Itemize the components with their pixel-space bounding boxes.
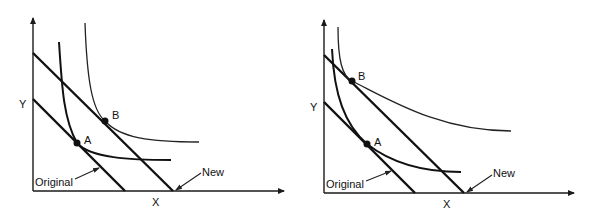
x-axis-label: X [152,196,160,208]
point-b [102,118,109,125]
point-a [74,140,81,147]
diagram-canvas: Y X A B Original New Y X A B [0,0,594,222]
point-a-label: A [84,134,92,146]
indifference-curve-new [85,23,199,142]
right-diagram: Y X A B Original New [310,20,574,210]
original-label: Original [35,176,73,188]
new-label: New [493,167,515,179]
point-b-label: B [358,70,365,82]
new-pointer-arrow [467,175,492,192]
original-pointer-arrow [366,171,391,181]
left-diagram: Y X A B Original New [19,18,284,208]
point-b [349,78,356,85]
original-pointer-arrow [75,168,99,179]
point-a-label: A [374,136,382,148]
new-label: New [202,166,224,178]
y-axis-label: Y [19,98,27,110]
new-pointer-arrow [176,173,201,190]
indifference-curve-original [332,49,461,172]
point-a [364,141,371,148]
y-axis-label: Y [310,101,318,113]
point-b-label: B [112,109,119,121]
x-axis-label: X [443,198,451,210]
original-label: Original [326,178,364,190]
